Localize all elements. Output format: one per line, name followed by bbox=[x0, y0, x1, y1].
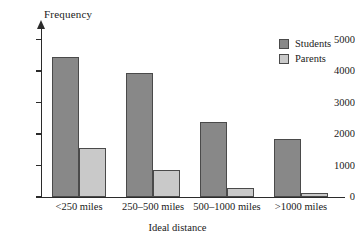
bar-chart: Frequency 010002000300040005000 <250 mil… bbox=[0, 0, 355, 242]
y-axis-title: Frequency bbox=[44, 8, 92, 20]
bar-students-3 bbox=[274, 139, 301, 197]
bar-parents-0 bbox=[79, 148, 106, 197]
bar-parents-3 bbox=[301, 193, 328, 197]
bar-group bbox=[126, 27, 180, 197]
legend-label-students: Students bbox=[295, 39, 331, 50]
legend-swatch-parents-icon bbox=[279, 54, 289, 64]
legend: Students Parents bbox=[279, 39, 331, 68]
x-tick-label: >1000 miles bbox=[256, 201, 346, 212]
x-axis-line bbox=[41, 197, 345, 198]
legend-item-parents: Parents bbox=[279, 54, 331, 65]
bar-parents-1 bbox=[153, 170, 180, 197]
bar-students-0 bbox=[52, 57, 79, 197]
legend-label-parents: Parents bbox=[295, 54, 326, 65]
bar-students-2 bbox=[200, 122, 227, 197]
legend-item-students: Students bbox=[279, 39, 331, 50]
bar-group bbox=[52, 27, 106, 197]
bar-parents-2 bbox=[227, 188, 254, 197]
legend-swatch-students-icon bbox=[279, 39, 289, 49]
bar-students-1 bbox=[126, 73, 153, 197]
x-axis-title: Ideal distance bbox=[0, 222, 355, 233]
bar-group bbox=[200, 27, 254, 197]
